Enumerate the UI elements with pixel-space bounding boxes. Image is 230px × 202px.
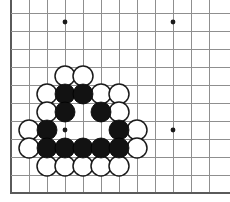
black-stone-10 [109,138,129,158]
black-stone-8 [73,138,93,158]
white-stone-3 [91,84,111,104]
black-stone-5 [109,120,129,140]
go-board-diagram: Go board position diagram showing a blac… [0,0,230,202]
white-stone-7 [19,120,39,140]
black-stone-4 [37,120,57,140]
white-stone-9 [19,138,39,158]
white-stone-0 [55,66,75,86]
white-stone-13 [73,156,93,176]
white-stone-11 [37,156,57,176]
star-point-2 [63,128,68,133]
star-point-1 [171,20,176,25]
white-stone-15 [109,156,129,176]
black-stone-6 [37,138,57,158]
white-stone-2 [37,84,57,104]
white-stone-8 [127,120,147,140]
white-stone-4 [109,84,129,104]
white-stone-1 [73,66,93,86]
black-stone-9 [91,138,111,158]
white-stone-14 [91,156,111,176]
white-stone-6 [109,102,129,122]
black-stone-0 [55,84,75,104]
white-stone-12 [55,156,75,176]
black-stone-2 [55,102,75,122]
star-point-0 [63,20,68,25]
black-stone-3 [91,102,111,122]
white-stone-5 [37,102,57,122]
white-stone-10 [127,138,147,158]
star-point-3 [171,128,176,133]
goban-canvas [0,0,230,202]
black-stone-1 [73,84,93,104]
black-stone-7 [55,138,75,158]
